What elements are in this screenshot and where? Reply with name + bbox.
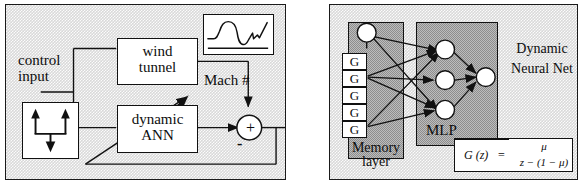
panel-control-system-block-diagram: control input xyxy=(5,4,286,180)
mlp-hidden-node-2 xyxy=(436,71,455,90)
edge-g5-to-hidden-3 xyxy=(368,111,434,127)
mlp-hidden-node-3 xyxy=(436,100,455,119)
memory-unit-g: G xyxy=(342,53,367,70)
edge-input-to-hidden-1 xyxy=(374,37,438,51)
sum-plus-sign: + xyxy=(246,120,255,137)
dynamic-ann-label: dynamic ANN xyxy=(118,112,197,144)
dynamic-ann-block: dynamic ANN xyxy=(117,105,198,153)
memory-input-node xyxy=(357,23,376,42)
control-input-label: control input xyxy=(18,53,61,85)
mach-response-plot xyxy=(203,14,274,55)
formula-numerator: μ xyxy=(517,140,571,152)
edge-g2-to-hidden-3 xyxy=(368,78,435,108)
mlp-label: MLP xyxy=(426,122,457,139)
memory-unit-g: G xyxy=(342,87,367,104)
mach-number-label: Mach # xyxy=(204,73,249,89)
formula-equals: = xyxy=(498,148,505,163)
memory-layer-label: Memory layer xyxy=(338,141,414,169)
transfer-function-box: G (z) = μ z − (1 − μ) xyxy=(454,138,573,172)
memory-unit-g: G xyxy=(342,104,367,121)
mlp-hidden-node-1 xyxy=(436,40,455,59)
wind-tunnel-block: wind tunnel xyxy=(117,38,198,85)
edge-hidden-2-to-output xyxy=(455,77,476,80)
control-signal-icon xyxy=(23,103,78,158)
formula-denominator: z − (1 − μ) xyxy=(515,156,573,168)
dynamic-neural-net-label: Dynamic Neural Net xyxy=(508,39,576,80)
memory-unit-g: G xyxy=(342,121,367,138)
mlp-output-node xyxy=(476,68,495,87)
wind-tunnel-label: wind tunnel xyxy=(118,44,197,76)
figure-root: control input xyxy=(0,0,583,184)
response-waveform-icon xyxy=(204,15,273,54)
sum-minus-sign: - xyxy=(237,136,242,153)
control-input-signal-box xyxy=(22,102,79,159)
edge-hidden-1-to-output xyxy=(453,51,476,73)
memory-unit-g: G xyxy=(342,70,367,87)
panel-dynamic-neural-net: G G G G G Memory layer MLP Dynamic Neura… xyxy=(329,4,578,180)
edge-hidden-3-to-output xyxy=(453,82,476,108)
edge-g2-to-hidden-1 xyxy=(368,50,437,76)
formula-lhs: G (z) xyxy=(464,148,488,163)
edge-g2-to-hidden-2 xyxy=(368,77,433,80)
edge-input-to-hidden-3 xyxy=(374,39,437,110)
formula-fraction-bar xyxy=(455,139,509,140)
